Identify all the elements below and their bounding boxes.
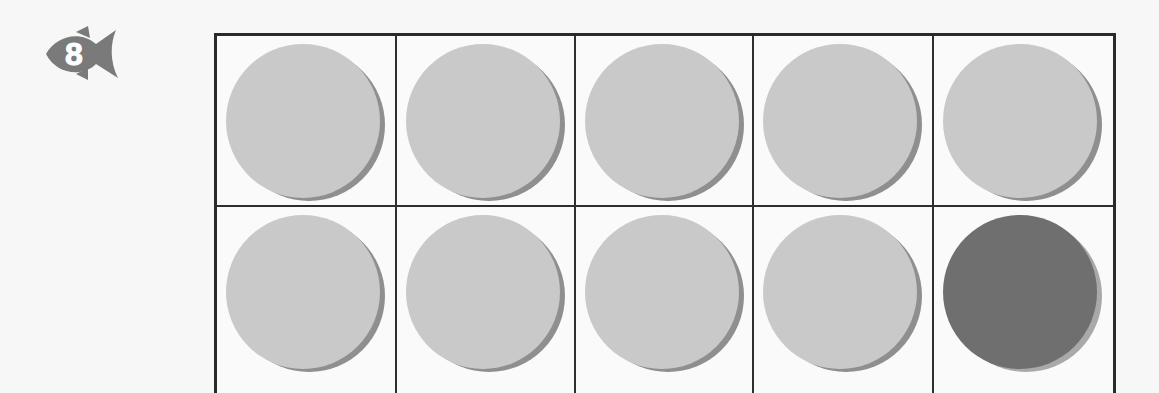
ten-frame-cell [934,36,1113,207]
counter-light [763,215,917,369]
ten-frame-cell [754,36,934,207]
ten-frame-cell [397,36,576,207]
ten-frame-cell [576,207,754,393]
problem-number-badge: 8 [42,24,124,82]
counter-light [406,215,560,369]
counter-light [585,215,739,369]
counter-dark [943,215,1097,369]
counter-light [585,44,739,198]
ten-frame-cell [934,207,1113,393]
counter-light [226,44,380,198]
fish-icon: 8 [42,24,124,82]
ten-frame-cell [397,207,576,393]
ten-frame-cell [576,36,754,207]
ten-frame [214,33,1116,393]
ten-frame-cell [217,36,397,207]
ten-frame-cell [754,207,934,393]
ten-frame-cell [217,207,397,393]
counter-light [763,44,917,198]
counter-light [406,44,560,198]
counter-light [943,44,1097,198]
problem-number: 8 [65,36,83,72]
counter-light [226,215,380,369]
